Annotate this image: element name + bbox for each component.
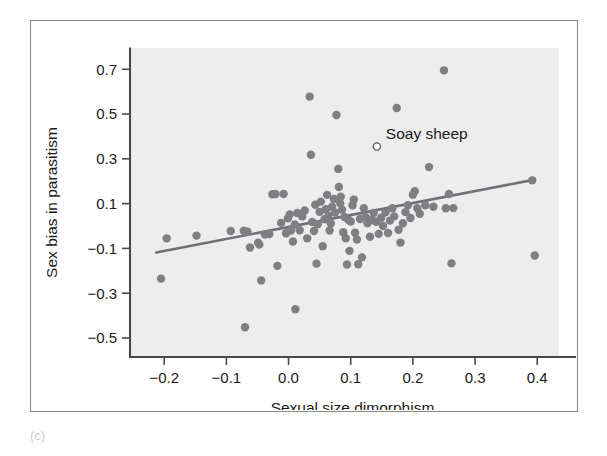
soay-sheep-point: [373, 143, 380, 150]
data-point: [358, 253, 366, 261]
data-point: [271, 190, 279, 198]
x-axis-label: Sexual size dimorphism: [271, 399, 435, 410]
figure-panel: −0.2−0.10.00.10.20.30.4 0.70.50.30.1−0.1…: [30, 20, 578, 412]
data-point: [445, 190, 453, 198]
x-tick-label: 0.4: [527, 369, 548, 386]
x-axis-ticks: −0.2−0.10.00.10.20.30.4: [149, 357, 547, 386]
data-point: [366, 233, 374, 241]
data-point: [393, 104, 401, 112]
data-point: [342, 234, 350, 242]
soay-sheep-marker: [373, 143, 380, 150]
data-point: [303, 234, 311, 242]
data-point: [314, 220, 322, 228]
data-point: [396, 238, 404, 246]
y-tick-label: 0.7: [96, 61, 117, 78]
scatter-plot: −0.2−0.10.00.10.20.30.4 0.70.50.30.1−0.1…: [31, 21, 576, 410]
data-point: [243, 227, 251, 235]
x-tick-label: 0.1: [340, 369, 361, 386]
data-point: [286, 210, 294, 218]
data-point: [442, 204, 450, 212]
data-point: [319, 242, 327, 250]
data-point: [289, 237, 297, 245]
y-tick-label: −0.3: [87, 285, 117, 302]
data-point: [447, 259, 455, 267]
data-point: [273, 262, 281, 270]
data-point: [257, 276, 265, 284]
data-point: [337, 192, 345, 200]
y-tick-label: 0.5: [96, 105, 117, 122]
data-point: [449, 204, 457, 212]
data-point: [265, 230, 273, 238]
y-tick-label: 0.1: [96, 195, 117, 212]
data-point: [312, 259, 320, 267]
data-point: [406, 214, 414, 222]
data-point: [404, 201, 412, 209]
data-point: [440, 66, 448, 74]
data-point: [399, 219, 407, 227]
data-point: [429, 203, 437, 211]
data-point: [255, 240, 263, 248]
data-point: [301, 206, 309, 214]
data-point: [388, 204, 396, 212]
data-point: [291, 305, 299, 313]
y-tick-label: 0.3: [96, 150, 117, 167]
data-point: [528, 176, 536, 184]
data-point: [390, 212, 398, 220]
data-point: [192, 231, 200, 239]
data-point: [334, 165, 342, 173]
y-axis-ticks: 0.70.50.30.1−0.1−0.3−0.5: [87, 61, 130, 347]
y-tick-label: −0.1: [87, 240, 117, 257]
data-point: [241, 323, 249, 331]
data-point: [343, 260, 351, 268]
x-tick-label: 0.0: [278, 369, 299, 386]
data-point: [335, 183, 343, 191]
soay-sheep-label: Soay sheep: [386, 125, 468, 142]
x-tick-label: −0.2: [149, 369, 179, 386]
data-point: [375, 230, 383, 238]
data-point: [332, 111, 340, 119]
data-point: [350, 195, 358, 203]
data-point: [227, 227, 235, 235]
plot-background: [130, 48, 559, 357]
data-point: [411, 187, 419, 195]
data-point: [425, 163, 433, 171]
y-tick-label: −0.5: [87, 329, 117, 346]
data-point: [157, 274, 165, 282]
data-point: [416, 210, 424, 218]
data-point: [421, 201, 429, 209]
data-point: [345, 247, 353, 255]
data-point: [360, 204, 368, 212]
data-point: [296, 226, 304, 234]
data-point: [531, 251, 539, 259]
data-point: [279, 190, 287, 198]
data-point: [162, 234, 170, 242]
data-point: [353, 235, 361, 243]
data-point: [347, 217, 355, 225]
data-point: [305, 92, 313, 100]
data-point: [327, 219, 335, 227]
data-point: [307, 151, 315, 159]
data-point: [338, 205, 346, 213]
x-tick-label: −0.1: [212, 369, 242, 386]
panel-label: (c): [30, 428, 45, 443]
data-point: [317, 197, 325, 205]
data-point: [246, 243, 254, 251]
y-axis-label: Sex bias in parasitism: [43, 127, 60, 278]
x-tick-label: 0.3: [465, 369, 486, 386]
data-point: [384, 229, 392, 237]
data-point: [379, 222, 387, 230]
x-tick-label: 0.2: [402, 369, 423, 386]
data-point: [370, 209, 378, 217]
